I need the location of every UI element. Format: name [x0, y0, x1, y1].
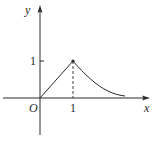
decay-curve [73, 61, 125, 96]
function-graph: y x O 1 1 [0, 0, 154, 143]
y-tick-label-1: 1 [30, 54, 36, 68]
x-tick-label-1: 1 [70, 101, 76, 115]
y-axis-label: y [24, 3, 31, 17]
peak-point [71, 59, 74, 62]
origin-label: O [29, 101, 38, 115]
x-axis-label: x [143, 101, 150, 115]
linear-segment [40, 61, 73, 98]
